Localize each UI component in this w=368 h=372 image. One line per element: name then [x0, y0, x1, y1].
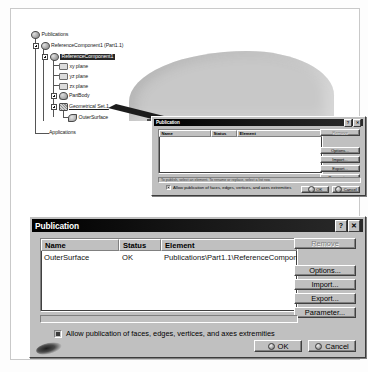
dialog-title: Publication	[35, 221, 79, 231]
table-row[interactable]: OuterSurface OK Publications\Part1.1\Ref…	[41, 251, 297, 263]
column-header-name[interactable]: Name	[159, 130, 211, 137]
options-button[interactable]: Options...	[320, 147, 360, 154]
tree-item-label: PartBody	[69, 93, 90, 98]
tree-item-label: Geometrical Set.1	[69, 104, 109, 109]
tree-connector	[35, 133, 49, 134]
dialog-titlebar[interactable]: Publication ? ✕	[32, 219, 363, 232]
column-header-status[interactable]: Status	[119, 239, 161, 251]
tree-item-label: OuterSurface	[79, 115, 109, 120]
column-header-element[interactable]: Element	[161, 239, 297, 251]
column-header-status[interactable]: Status	[211, 130, 237, 137]
export-button[interactable]: Export...	[294, 293, 356, 304]
tree-item-referencecomponent1[interactable]: ReferenceComponent1	[42, 53, 115, 61]
tree-item-publications[interactable]: Publications	[31, 31, 68, 39]
column-header-element[interactable]: Element	[237, 130, 322, 137]
globe-icon	[41, 42, 50, 50]
expander-icon[interactable]	[51, 93, 57, 99]
geometrical-set-icon	[59, 103, 68, 111]
ok-label: OK	[316, 187, 322, 192]
help-button[interactable]: ?	[344, 119, 352, 127]
status-bar: To publish, select an element. To rename…	[158, 177, 361, 183]
import-button[interactable]: Import...	[294, 279, 356, 290]
globe-icon	[31, 31, 40, 39]
tree-item-label-selected: ReferenceComponent1	[60, 54, 115, 59]
publication-dialog-large[interactable]: Publication ? ✕ Name Status Element Oute…	[29, 216, 366, 358]
cancel-icon	[315, 343, 322, 350]
dialog-title: Publication	[156, 120, 180, 125]
titlebar-buttons: ? ✕	[344, 119, 361, 127]
tree-item-outersurface[interactable]: OuterSurface	[68, 114, 108, 122]
publication-list[interactable]: Name Status Element	[158, 129, 323, 174]
tree-item-label: Applications	[49, 130, 76, 135]
cancel-button[interactable]: Cancel	[332, 186, 360, 193]
expander-icon[interactable]	[51, 104, 57, 110]
expander-icon[interactable]	[33, 43, 39, 49]
dialog-footer-buttons: OK Cancel	[254, 340, 356, 352]
options-button[interactable]: Options...	[294, 265, 356, 276]
list-header-row: Name Status Element	[41, 239, 297, 251]
plane-icon	[59, 73, 68, 80]
plane-icon	[59, 83, 68, 90]
import-button[interactable]: Import...	[320, 156, 360, 163]
cancel-button[interactable]: Cancel	[308, 340, 356, 352]
allow-publication-checkbox[interactable]	[166, 185, 171, 190]
ok-label: OK	[278, 342, 289, 351]
allow-publication-checkbox-row[interactable]: Allow publication of faces, edges, verti…	[54, 329, 275, 338]
help-button[interactable]: ?	[335, 220, 347, 232]
cell-status: OK	[119, 253, 161, 262]
allow-publication-checkbox-row[interactable]: Allow publication of faces, edges, verti…	[166, 185, 291, 190]
page-frame: Publications ReferenceComponent1 (Part1.…	[10, 8, 360, 360]
surface-icon	[68, 114, 77, 122]
dialog-titlebar[interactable]: Publication ? ✕	[154, 119, 363, 126]
cancel-label: Cancel	[344, 187, 357, 192]
allow-publication-checkbox[interactable]	[54, 330, 62, 338]
ok-icon	[308, 186, 315, 193]
ok-icon	[268, 343, 275, 350]
body-icon	[59, 92, 68, 100]
status-bar	[40, 315, 298, 323]
tree-item-label: yz plane	[70, 74, 89, 79]
tree-item-referencecomponent1-part[interactable]: ReferenceComponent1 (Part1.1)	[33, 42, 123, 50]
tree-item-yz-plane[interactable]: yz plane	[59, 73, 88, 80]
screenshot-root: Publications ReferenceComponent1 (Part1.…	[0, 0, 368, 372]
expander-icon[interactable]	[42, 54, 48, 60]
allow-publication-label: Allow publication of faces, edges, verti…	[66, 329, 275, 338]
tree-item-geometrical-set[interactable]: Geometrical Set.1	[51, 103, 109, 111]
remove-button[interactable]: Remove	[294, 238, 356, 249]
remove-button[interactable]: Remove	[320, 129, 360, 136]
plane-icon	[59, 63, 68, 70]
titlebar-buttons: ? ✕	[335, 220, 360, 232]
cell-element: Publications\Part1.1\ReferenceComponent1…	[161, 253, 297, 262]
publication-list[interactable]: Name Status Element OuterSurface OK Publ…	[40, 238, 298, 312]
tree-item-label: Publications	[42, 32, 69, 37]
allow-publication-label: Allow publication of faces, edges, verti…	[173, 185, 291, 190]
dialog-footer-buttons: OK Cancel	[301, 186, 360, 193]
cancel-label: Cancel	[325, 342, 349, 351]
tree-item-zx-plane[interactable]: zx plane	[59, 83, 88, 90]
publication-dialog-small[interactable]: Publication ? ✕ Name Status Element Remo…	[151, 116, 366, 196]
tree-item-label: ReferenceComponent1 (Part1.1)	[51, 43, 123, 48]
close-button[interactable]: ✕	[353, 119, 361, 127]
close-button[interactable]: ✕	[348, 220, 360, 232]
parameter-button[interactable]: Parameter...	[294, 307, 356, 318]
globe-icon	[50, 53, 59, 61]
tree-item-xy-plane[interactable]: xy plane	[59, 63, 88, 70]
column-header-name[interactable]: Name	[41, 239, 119, 251]
tree-item-applications[interactable]: Applications	[49, 130, 76, 135]
export-button[interactable]: Export...	[320, 165, 360, 172]
tree-item-label: xy plane	[70, 64, 89, 69]
cancel-icon	[335, 186, 342, 193]
scan-smudge	[35, 340, 63, 356]
ok-button[interactable]: OK	[301, 186, 329, 193]
tree-item-partbody[interactable]: PartBody	[51, 92, 90, 100]
list-header-row: Name Status Element	[159, 130, 322, 137]
cell-name: OuterSurface	[41, 253, 119, 262]
ok-button[interactable]: OK	[254, 340, 302, 352]
tree-item-label: zx plane	[70, 84, 89, 89]
